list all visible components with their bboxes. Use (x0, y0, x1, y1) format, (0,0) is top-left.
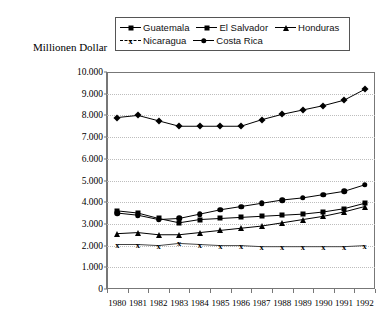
legend-item-costa-rica[interactable]: Costa Rica (193, 35, 262, 46)
legend-marker-ex-icon: x (128, 36, 133, 45)
data-point-nicaragua: x (218, 241, 222, 250)
data-point-costa-rica (176, 216, 182, 222)
data-point-el-salvador (259, 214, 264, 219)
x-tick-mark (148, 289, 149, 293)
x-tick-label: 1989 (294, 298, 312, 308)
data-point-honduras (362, 204, 368, 210)
legend-label: Costa Rica (216, 35, 262, 46)
data-point-honduras (135, 230, 141, 236)
legend-key (275, 22, 296, 33)
x-tick-label: 1981 (129, 298, 147, 308)
legend-item-guatemala[interactable]: Guatemala (120, 22, 189, 33)
data-point-el-salvador (197, 217, 202, 222)
legend-row: GuatemalaEl SalvadorHonduras (120, 21, 345, 34)
y-tick-label: 8.000 (82, 110, 103, 120)
data-point-nicaragua: x (156, 241, 160, 250)
data-point-honduras (300, 217, 306, 223)
chart-legend: GuatemalaEl SalvadorHondurasxNicaraguaCo… (115, 17, 350, 51)
x-tick-mark (354, 289, 355, 293)
x-tick-mark (189, 289, 190, 293)
legend-row: xNicaraguaCosta Rica (120, 34, 345, 47)
data-point-nicaragua: x (301, 242, 305, 251)
x-tick-mark (375, 289, 376, 293)
data-point-costa-rica (238, 204, 244, 210)
data-point-costa-rica (156, 217, 162, 223)
legend-label: Nicaragua (143, 35, 186, 46)
x-tick-mark (128, 289, 129, 293)
x-tick-mark (272, 289, 273, 293)
data-point-costa-rica (135, 212, 141, 218)
data-point-honduras (114, 231, 120, 237)
y-tick-label: 2.000 (82, 241, 103, 251)
y-tick-label: 1.000 (82, 262, 103, 272)
y-axis-title: Millionen Dollar (33, 41, 107, 53)
y-tick-label: 10.000 (77, 67, 103, 77)
data-point-honduras (217, 227, 223, 233)
x-tick-label: 1983 (170, 298, 188, 308)
data-point-costa-rica (259, 201, 265, 207)
x-tick-mark (293, 289, 294, 293)
x-tick-mark (169, 289, 170, 293)
data-point-costa-rica (197, 211, 203, 217)
data-point-nicaragua: x (115, 240, 119, 249)
legend-item-el-salvador[interactable]: El Salvador (196, 22, 268, 33)
data-point-nicaragua: x (342, 242, 346, 251)
y-tick-label: 5.000 (82, 176, 103, 186)
chart-plot-area: 10.0009.0008.0007.0006.0005.0004.0003.00… (107, 72, 375, 289)
y-tick-label: 3.000 (82, 219, 103, 229)
legend-key: x (120, 35, 141, 46)
data-point-costa-rica (300, 195, 306, 201)
data-point-honduras (341, 209, 347, 215)
x-tick-mark (251, 289, 252, 293)
x-tick-label: 1984 (191, 298, 209, 308)
data-point-nicaragua: x (321, 242, 325, 251)
data-point-honduras (238, 225, 244, 231)
legend-label: El Salvador (219, 22, 268, 33)
data-point-honduras (197, 230, 203, 236)
data-point-nicaragua: x (136, 240, 140, 249)
y-tick-label: 0 (98, 284, 103, 294)
legend-key (196, 22, 217, 33)
legend-marker-diamond-icon (128, 25, 133, 30)
y-tick-label: 9.000 (82, 89, 103, 99)
x-tick-label: 1991 (335, 298, 353, 308)
data-point-nicaragua: x (363, 241, 367, 250)
data-point-honduras (279, 220, 285, 226)
data-point-nicaragua: x (280, 242, 284, 251)
data-point-honduras (320, 213, 326, 219)
x-tick-mark (231, 289, 232, 293)
legend-item-nicaragua[interactable]: xNicaragua (120, 35, 186, 46)
legend-label: Honduras (298, 22, 339, 33)
data-point-costa-rica (341, 189, 347, 195)
y-tick-label: 4.000 (82, 197, 103, 207)
x-tick-label: 1988 (273, 298, 291, 308)
legend-key (193, 35, 214, 46)
x-tick-label: 1990 (314, 298, 332, 308)
data-point-honduras (176, 232, 182, 238)
x-tick-mark (107, 289, 108, 293)
data-point-costa-rica (362, 182, 368, 188)
legend-marker-triangle-icon (283, 25, 289, 31)
x-tick-mark (210, 289, 211, 293)
y-tick-label: 6.000 (82, 154, 103, 164)
data-point-el-salvador (280, 213, 285, 218)
legend-key (120, 22, 141, 33)
data-point-nicaragua: x (198, 240, 202, 249)
x-tick-label: 1982 (150, 298, 168, 308)
data-point-costa-rica (279, 197, 285, 203)
x-tick-mark (313, 289, 314, 293)
data-point-honduras (259, 223, 265, 229)
data-point-honduras (156, 232, 162, 238)
x-tick-label: 1980 (108, 298, 126, 308)
x-tick-label: 1985 (211, 298, 229, 308)
data-point-el-salvador (218, 216, 223, 221)
x-tick-mark (334, 289, 335, 293)
x-tick-label: 1992 (356, 298, 374, 308)
data-point-costa-rica (218, 207, 224, 213)
data-point-nicaragua: x (259, 242, 263, 251)
data-point-nicaragua: x (177, 239, 181, 248)
data-point-costa-rica (115, 210, 121, 216)
legend-item-honduras[interactable]: Honduras (275, 22, 339, 33)
legend-label: Guatemala (143, 22, 189, 33)
data-point-costa-rica (321, 192, 327, 198)
